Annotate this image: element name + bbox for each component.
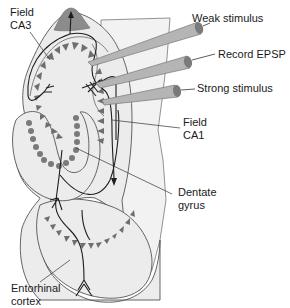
hippocampus-diagram — [0, 0, 290, 308]
label-field-ca3: Field CA3 — [10, 6, 34, 31]
label-weak-stimulus: Weak stimulus — [192, 12, 263, 25]
label-strong-stimulus: Strong stimulus — [197, 82, 273, 95]
label-entorhinal-cortex: Entorhinal cortex — [11, 282, 61, 307]
label-dentate-gyrus: Dentate gyrus — [178, 186, 217, 211]
label-record-epsp: Record EPSP — [218, 48, 286, 61]
label-field-ca1: Field CA1 — [183, 116, 207, 141]
